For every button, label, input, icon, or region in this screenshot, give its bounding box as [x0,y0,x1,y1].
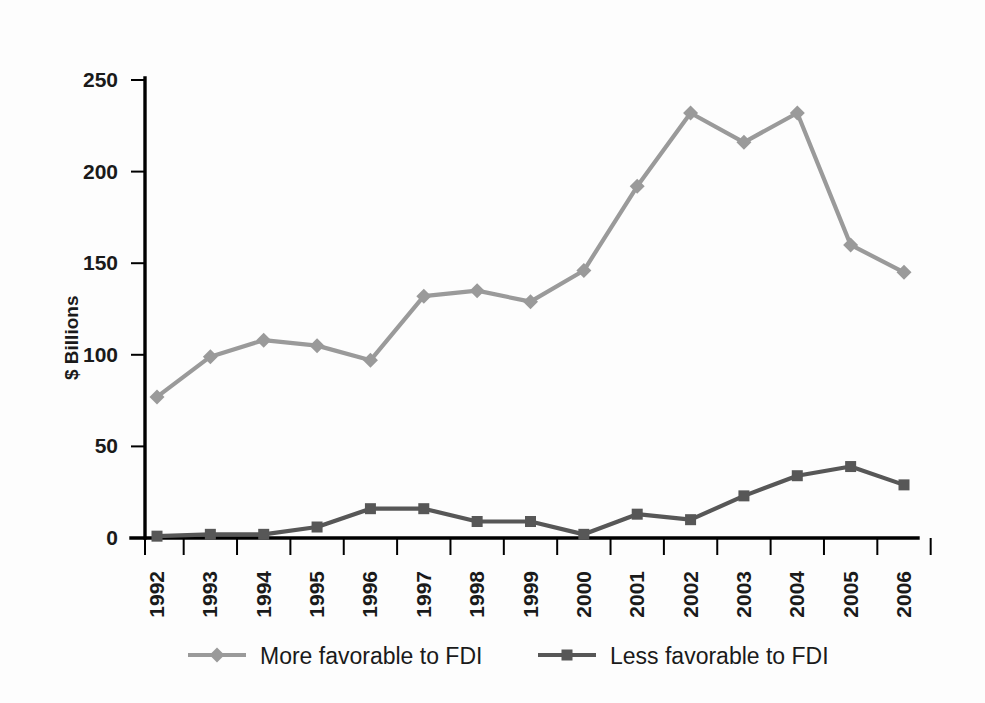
y-axis-title-text: $ Billions [61,296,82,380]
data-point-marker [472,516,483,527]
y-tick-label: 200 [83,160,118,183]
x-tick-label: 1999 [519,571,542,618]
y-tick-label: 250 [83,68,118,91]
data-point-marker [899,479,910,490]
data-point-marker [418,503,429,514]
y-tick-label: 50 [95,434,118,457]
data-point-marker [578,529,589,540]
line-chart: $ Billions 050100150200250 1992199319941… [0,0,985,703]
legend-item-label: More favorable to FDI [260,643,482,669]
x-tick-label: 2004 [785,571,808,618]
y-tick-label: 100 [83,343,118,366]
data-point-marker [205,529,216,540]
x-tick-label: 1996 [358,571,381,618]
data-point-marker [685,514,696,525]
x-tick-label: 1997 [412,571,435,618]
data-point-marker [845,461,856,472]
x-tick-label: 2003 [732,571,755,618]
x-tick-label: 1995 [305,571,328,618]
y-tick-label: 150 [83,251,118,274]
x-tick-label: 2002 [679,571,702,618]
x-tick-label: 2006 [892,571,915,618]
data-point-marker [365,503,376,514]
y-tick-label: 0 [106,526,118,549]
x-tick-label: 1993 [198,571,221,618]
chart-figure: $ Billions 050100150200250 1992199319941… [0,0,985,703]
legend-marker-icon [562,650,573,661]
x-tick-label: 2001 [625,571,648,618]
data-point-marker [792,470,803,481]
data-point-marker [258,529,269,540]
y-axis-title: $ Billions [61,296,82,380]
data-point-marker [152,531,163,542]
x-tick-label: 1998 [465,571,488,618]
data-point-marker [312,522,323,533]
legend-item-label: Less favorable to FDI [610,643,829,669]
x-tick-label: 2005 [839,571,862,618]
x-tick-label: 1992 [145,571,168,618]
data-point-marker [525,516,536,527]
data-point-marker [738,490,749,501]
x-tick-label: 1994 [252,571,275,618]
x-tick-label: 2000 [572,571,595,618]
data-point-marker [632,509,643,520]
